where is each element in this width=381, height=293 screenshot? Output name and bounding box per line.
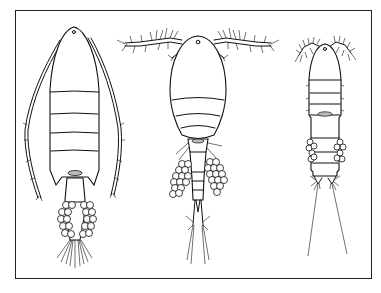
cyclopoid-prosome bbox=[170, 36, 226, 139]
cyclopoid-egg-sac-left bbox=[170, 161, 192, 198]
calanoid-prosome bbox=[50, 27, 99, 185]
cyclopoid-egg-sac-right bbox=[205, 159, 228, 196]
harpacticoid-caudal-setae bbox=[308, 176, 347, 256]
harpacticoid-copepod bbox=[295, 36, 356, 256]
calanoid-copepod bbox=[23, 27, 125, 268]
calanoid-caudal-setae bbox=[57, 240, 92, 268]
copepod-illustration bbox=[0, 0, 381, 293]
cyclopoid-copepod bbox=[117, 28, 279, 264]
cyclopoid-caudal-setae bbox=[186, 216, 210, 264]
